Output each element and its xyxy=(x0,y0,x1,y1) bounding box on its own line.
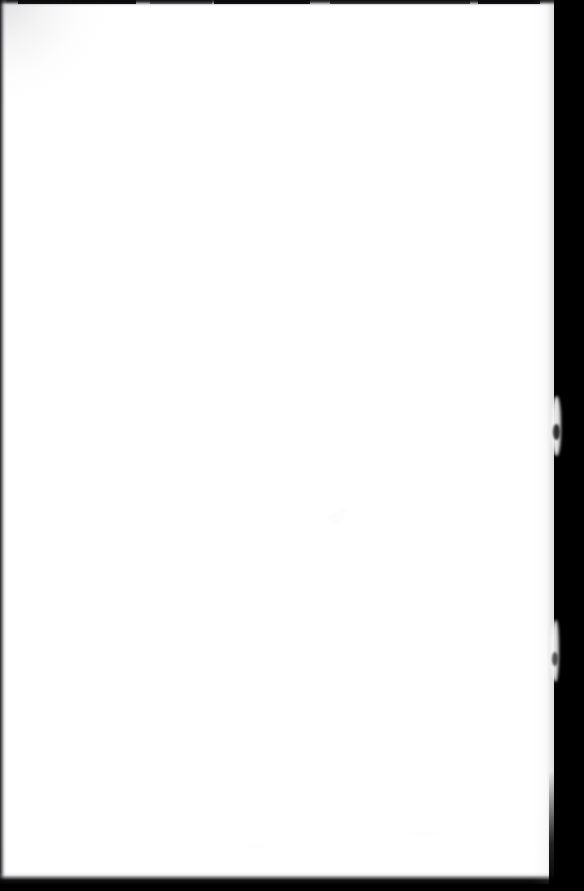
paper-sheet xyxy=(0,0,559,884)
blank-paper-surface xyxy=(0,0,559,884)
scanned-page-image xyxy=(0,0,584,891)
